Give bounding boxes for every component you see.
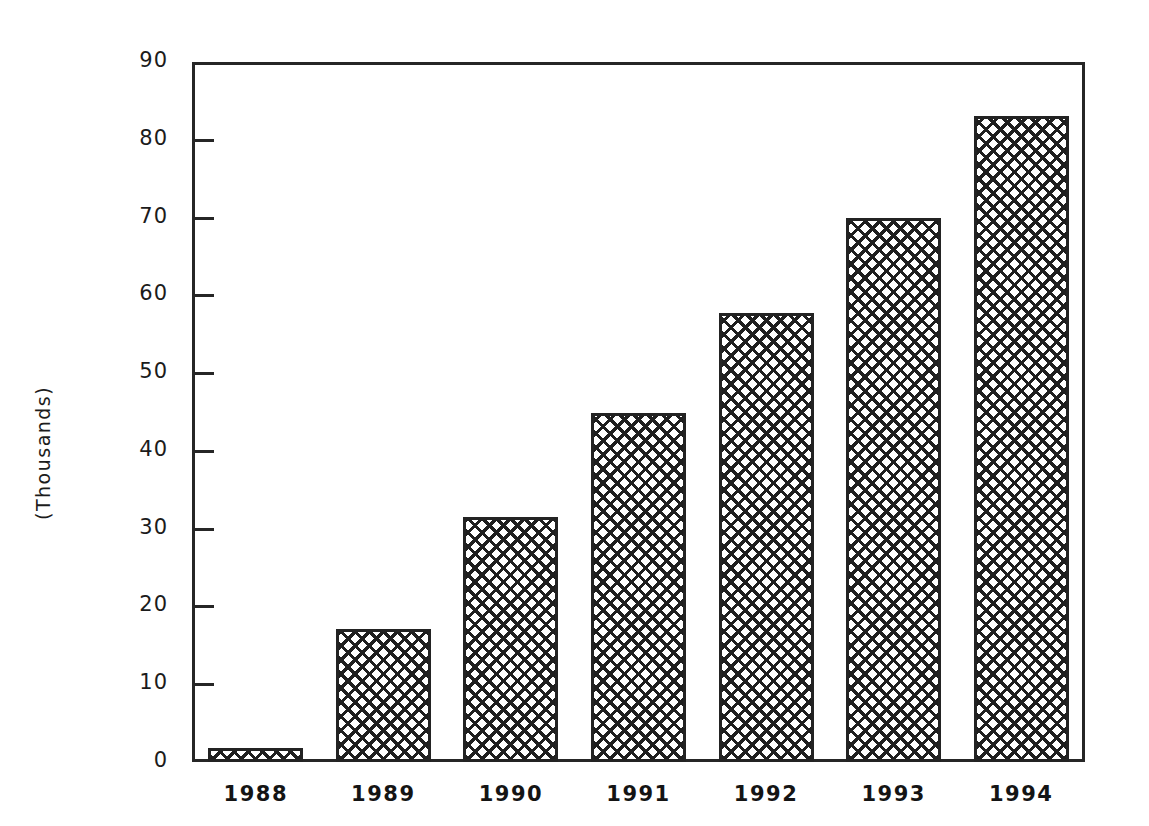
y-axis-tick-mark (192, 372, 214, 375)
x-axis-tick-label: 1993 (824, 782, 964, 806)
x-axis-tick-label: 1991 (569, 782, 709, 806)
y-axis-tick-mark (192, 605, 214, 608)
y-axis-tick-mark (192, 217, 214, 220)
y-axis-tick-label: 10 (108, 670, 168, 694)
y-axis-tick-mark (192, 294, 214, 297)
y-axis-tick-label: 70 (108, 204, 168, 228)
x-axis-tick-label: 1994 (951, 782, 1091, 806)
y-axis-tick-mark (192, 450, 214, 453)
x-axis-tick-label: 1988 (186, 782, 326, 806)
x-axis-tick-label: 1992 (696, 782, 836, 806)
y-axis-tick-label: 0 (108, 748, 168, 772)
x-axis-tick-label: 1990 (441, 782, 581, 806)
y-axis-tick-mark (192, 683, 214, 686)
bar (208, 748, 303, 762)
y-axis-tick-label: 60 (108, 281, 168, 305)
bar (463, 517, 558, 762)
x-axis-tick-label: 1989 (313, 782, 453, 806)
bar (974, 116, 1069, 762)
y-axis-title: (Thousands) (26, 220, 60, 520)
y-axis-tick-label: 20 (108, 592, 168, 616)
y-axis-tick-mark (192, 139, 214, 142)
y-axis-tick-label: 40 (108, 437, 168, 461)
bar (591, 413, 686, 762)
bar-chart: (Thousands) 0102030405060708090 19881989… (0, 0, 1149, 826)
y-axis-tick-mark (192, 528, 214, 531)
bar (336, 629, 431, 762)
y-axis-tick-label: 50 (108, 359, 168, 383)
bar (846, 218, 941, 762)
y-axis-tick-label: 30 (108, 515, 168, 539)
y-axis-tick-label: 80 (108, 126, 168, 150)
y-axis-tick-label: 90 (108, 48, 168, 72)
bar (719, 313, 814, 762)
